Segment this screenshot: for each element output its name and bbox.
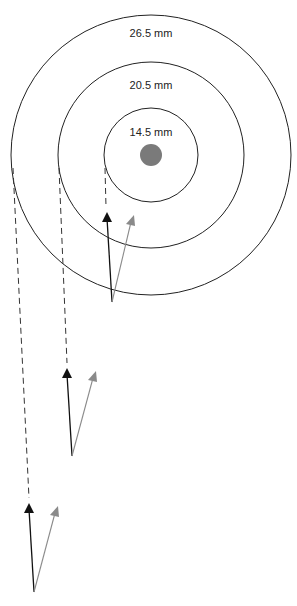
black-arrowhead-icon: [102, 212, 112, 222]
gray-arrow-shaft: [34, 513, 55, 592]
black-arrow-shaft: [29, 509, 34, 592]
gray-arrow-shaft: [72, 378, 93, 456]
center-dot: [140, 144, 162, 166]
rings: [11, 15, 291, 295]
black-arrowhead-icon: [24, 503, 34, 513]
gray-arrowhead-icon: [88, 371, 97, 382]
dashed-projection-line: [13, 168, 29, 498]
gray-arrowhead-icon: [50, 506, 59, 517]
outer-ring-label: 26.5 mm: [130, 27, 173, 39]
middle-ring-label: 20.5 mm: [130, 79, 173, 91]
black-arrow-shaft: [67, 374, 72, 456]
arrow-set-3: [13, 168, 59, 592]
ring-diagram: 26.5 mm 20.5 mm 14.5 mm: [0, 0, 297, 606]
black-arrowhead-icon: [62, 368, 72, 378]
inner-ring-label: 14.5 mm: [130, 126, 173, 138]
dashed-projection-line: [105, 168, 106, 207]
gray-arrowhead-icon: [126, 215, 135, 226]
black-arrow-shaft: [107, 218, 112, 302]
arrow-set-1: [102, 168, 135, 302]
arrow-set-2: [59, 168, 97, 456]
gray-arrow-shaft: [112, 222, 131, 302]
